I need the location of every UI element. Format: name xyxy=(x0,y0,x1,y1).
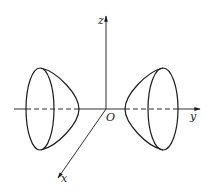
hyperboloid-two-sheets-diagram: z y x O xyxy=(0,0,210,196)
x-axis-label: x xyxy=(61,172,68,185)
x-axis xyxy=(58,109,106,178)
y-axis-label: y xyxy=(189,110,197,123)
z-axis-label: z xyxy=(97,14,104,27)
origin-label: O xyxy=(106,111,115,124)
